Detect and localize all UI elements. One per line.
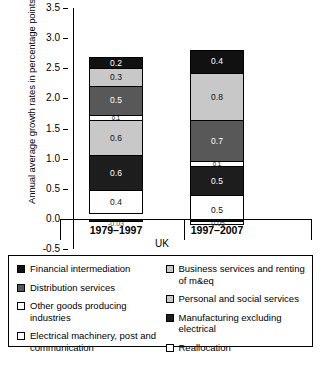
y-tick-label: 3.5 bbox=[46, 3, 60, 13]
bar-segment[interactable]: 0.4 bbox=[190, 50, 244, 74]
y-tick-mark bbox=[63, 159, 68, 160]
legend-column-right: Business services and renting of m&eqPer… bbox=[166, 263, 307, 360]
bar-segment-label: 0.6 bbox=[110, 134, 122, 143]
legend-item[interactable]: Financial intermediation bbox=[17, 263, 158, 275]
y-tick-label: 1.5 bbox=[46, 124, 60, 134]
y-tick-label: 3.0 bbox=[46, 33, 60, 43]
legend-swatch-icon bbox=[17, 284, 25, 292]
legend-item-label: Personal and social services bbox=[179, 293, 299, 305]
y-tick-mark bbox=[63, 98, 68, 99]
legend-swatch-icon bbox=[166, 265, 174, 273]
legend-item[interactable]: Reallocation bbox=[166, 342, 307, 354]
legend-item[interactable]: Distribution services bbox=[17, 282, 158, 294]
bar-segment-label: 0.8 bbox=[211, 93, 223, 102]
legend-item[interactable]: Other goods producing industries bbox=[17, 300, 158, 323]
bar-segment-label: 0.2 bbox=[110, 59, 122, 68]
legend-item[interactable]: Personal and social services bbox=[166, 293, 307, 305]
legend-swatch-icon bbox=[166, 344, 174, 352]
y-tick-label: 1.0 bbox=[46, 154, 60, 164]
bar-segment-label: 0.6 bbox=[110, 169, 122, 178]
y-tick-label: 0.5 bbox=[46, 184, 60, 194]
x-axis-title: UK bbox=[0, 238, 324, 249]
y-tick-label: 0.0 bbox=[46, 214, 60, 224]
negative-bar-segment[interactable] bbox=[89, 219, 143, 222]
legend-swatch-icon bbox=[17, 265, 25, 273]
y-tick-mark bbox=[63, 68, 68, 69]
bar-segment-label: 0.7 bbox=[211, 137, 223, 146]
y-tick-mark bbox=[63, 249, 68, 250]
bar-segment-label: 0.5 bbox=[211, 177, 223, 186]
legend-item-label: Other goods producing industries bbox=[30, 300, 158, 323]
stacked-bar-2[interactable]: 0.40.80.70.10.50.5 bbox=[190, 50, 244, 226]
y-tick-mark bbox=[63, 8, 68, 9]
legend-item-label: Distribution services bbox=[30, 282, 115, 294]
legend-item-label: Business services and renting of m&eq bbox=[179, 263, 307, 286]
bar-segment-label: 0.4 bbox=[211, 57, 223, 66]
y-axis-line bbox=[73, 8, 74, 249]
legend-swatch-icon bbox=[17, 332, 25, 340]
y-tick-label: 2.0 bbox=[46, 93, 60, 103]
legend-item-label: Electrical machinery, post and communica… bbox=[30, 330, 158, 353]
chart-page: Annual average growth rates in percentag… bbox=[0, 0, 324, 373]
bar-segment-label: 0.5 bbox=[211, 206, 223, 215]
bar-segment[interactable]: 0.5 bbox=[89, 86, 143, 116]
legend-item[interactable]: Manufacturing excluding electrical bbox=[166, 312, 307, 335]
x-axis-category-1: 1979–1997 bbox=[61, 224, 171, 236]
negative-bar-segment[interactable] bbox=[190, 219, 244, 222]
bar-segment[interactable]: 0.8 bbox=[190, 73, 244, 121]
legend-swatch-icon bbox=[17, 302, 25, 310]
legend-swatch-icon bbox=[166, 295, 174, 303]
bar-segment-label: 0.5 bbox=[110, 96, 122, 105]
legend-column-left: Financial intermediationDistribution ser… bbox=[17, 263, 158, 360]
plot-area: Annual average growth rates in percentag… bbox=[0, 0, 324, 248]
stacked-bar-1[interactable]: 0.20.30.50.10.60.60.4 bbox=[89, 57, 143, 214]
bar-segment-label: 0.3 bbox=[110, 73, 122, 82]
bar-segment[interactable]: 0.6 bbox=[89, 120, 143, 156]
y-axis-ticks: -0.50.00.51.01.52.02.53.03.5 bbox=[28, 8, 68, 220]
bar-segment[interactable]: 0.7 bbox=[190, 120, 244, 162]
legend-item-label: Financial intermediation bbox=[30, 263, 130, 275]
group-bracket-tick bbox=[311, 219, 312, 240]
y-tick-mark bbox=[63, 38, 68, 39]
legend-item-label: Manufacturing excluding electrical bbox=[179, 312, 307, 335]
legend-item[interactable]: Electrical machinery, post and communica… bbox=[17, 330, 158, 353]
bar-segment[interactable]: 0.5 bbox=[190, 166, 244, 196]
bar-segment[interactable]: 0.4 bbox=[89, 190, 143, 214]
x-axis-category-2: 1997–2007 bbox=[162, 224, 272, 236]
bar-segment-label: 0.4 bbox=[110, 198, 122, 207]
legend-swatch-icon bbox=[166, 314, 174, 322]
bar-segment[interactable]: 0.6 bbox=[89, 155, 143, 191]
y-tick-mark bbox=[63, 189, 68, 190]
bar-segment[interactable]: 0.3 bbox=[89, 68, 143, 86]
y-tick-label: 2.5 bbox=[46, 63, 60, 73]
legend-item-label: Reallocation bbox=[179, 342, 231, 354]
legend-item[interactable]: Business services and renting of m&eq bbox=[166, 263, 307, 286]
chart-legend: Financial intermediationDistribution ser… bbox=[8, 255, 313, 347]
y-tick-mark bbox=[63, 129, 68, 130]
